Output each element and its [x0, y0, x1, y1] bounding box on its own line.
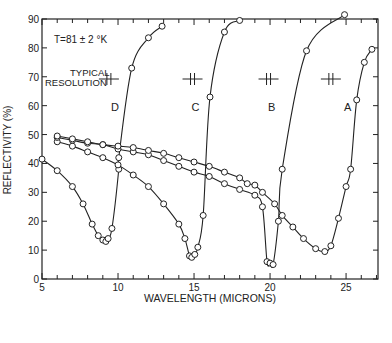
data-point [191, 159, 197, 165]
data-point [69, 143, 75, 149]
data-point [54, 168, 60, 174]
data-point [206, 173, 212, 179]
curve-label-D: D [111, 101, 119, 113]
data-point [301, 236, 307, 242]
data-point [304, 48, 310, 54]
data-point [161, 158, 167, 164]
data-point [176, 155, 182, 161]
data-point [270, 262, 276, 268]
data-point [182, 236, 188, 242]
data-point [354, 97, 360, 103]
curve-label-A: A [344, 101, 352, 113]
y-tick-label: 50 [28, 130, 40, 141]
data-point [176, 221, 182, 227]
x-axis-label: WAVELENGTH (MICRONS) [144, 292, 276, 304]
data-point [343, 184, 349, 190]
data-point [342, 12, 348, 18]
y-tick-label: 60 [28, 101, 40, 112]
x-tick-label: 10 [112, 282, 124, 293]
data-point [237, 175, 243, 181]
data-point [200, 212, 206, 218]
annotations: TYPICALRESOLUTION [45, 67, 341, 88]
y-tick-label: 80 [28, 43, 40, 54]
plot-frame [42, 19, 378, 279]
data-point [252, 192, 258, 198]
data-point [85, 149, 91, 155]
y-tick-label: 0 [33, 274, 39, 285]
data-point [115, 143, 121, 149]
data-point [69, 184, 75, 190]
data-point [145, 35, 151, 41]
data-point [69, 136, 75, 142]
curve-D [42, 26, 162, 241]
data-point [290, 224, 296, 230]
data-point [85, 139, 91, 145]
data-point [115, 162, 121, 168]
data-point [221, 29, 227, 35]
data-point [221, 181, 227, 187]
curve-B [57, 15, 344, 268]
data-point [109, 225, 115, 231]
data-point [259, 204, 265, 210]
data-point [195, 244, 201, 250]
data-point [328, 243, 334, 249]
y-axis-label: REFLECTIVITY (%) [2, 106, 13, 195]
data-point [54, 133, 60, 139]
data-point [176, 163, 182, 169]
x-tick-label: 25 [341, 282, 353, 293]
y-tick-label: 70 [28, 72, 40, 83]
curve-C [57, 20, 239, 257]
y-tick-label: 20 [28, 216, 40, 227]
curve-label-B: B [268, 101, 275, 113]
data-point [369, 46, 375, 52]
data-point [252, 182, 258, 188]
data-point [161, 201, 167, 207]
reflectivity-chart: 5101520250102030405060708090 DCBA TYPICA… [0, 0, 392, 343]
data-point [80, 201, 86, 207]
data-point [207, 94, 213, 100]
data-point [159, 23, 165, 29]
data-point [100, 142, 106, 148]
curve-label-C: C [192, 101, 200, 113]
y-tick-label: 90 [28, 14, 40, 25]
data-point [361, 59, 367, 65]
data-point [335, 215, 341, 221]
y-tick-label: 30 [28, 187, 40, 198]
data-point [275, 218, 281, 224]
data-point [89, 221, 95, 227]
data-point [130, 172, 136, 178]
data-point [272, 201, 278, 207]
curves: DCBA [39, 12, 375, 268]
data-point [348, 166, 354, 172]
data-point [145, 147, 151, 153]
y-tick-label: 40 [28, 158, 40, 169]
data-point [279, 212, 285, 218]
data-point [244, 181, 250, 187]
resolution-label-line2: RESOLUTION [45, 77, 107, 88]
data-point [129, 65, 135, 71]
data-point [192, 251, 198, 257]
data-point [100, 155, 106, 161]
data-point [145, 184, 151, 190]
x-tick-label: 5 [39, 282, 45, 293]
data-point [105, 236, 111, 242]
data-point [313, 246, 319, 252]
temperature-annotation: T=81 ± 2 °K [54, 34, 107, 45]
data-point [116, 155, 122, 161]
data-point [130, 145, 136, 151]
data-point [237, 186, 243, 192]
y-tick-label: 10 [28, 245, 40, 256]
data-point [161, 150, 167, 156]
data-point [39, 156, 45, 162]
data-point [206, 163, 212, 169]
data-point [259, 189, 265, 195]
data-point [191, 169, 197, 175]
data-point [322, 249, 328, 255]
data-point [237, 17, 243, 23]
data-point [279, 166, 285, 172]
data-point [221, 169, 227, 175]
